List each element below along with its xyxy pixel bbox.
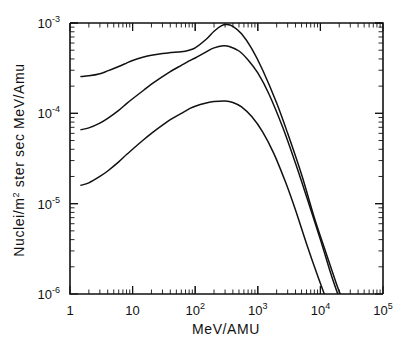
y-axis-title: Nuclei/m2 ster sec MeV/Amu xyxy=(11,63,27,256)
x-tick-label-0: 1 xyxy=(66,303,73,318)
x-tick-label-4: 104 xyxy=(311,301,330,318)
figure-container: 110102103104105 10-310-410-510-6 MeV/AMU… xyxy=(0,0,407,343)
x-tick-label-5: 105 xyxy=(373,301,392,318)
x-tick-label-3: 103 xyxy=(248,301,267,318)
spectrum-chart: 110102103104105 10-310-410-510-6 MeV/AMU… xyxy=(0,0,407,343)
x-tick-labels: 110102103104105 xyxy=(66,301,392,318)
curve-lower-curve xyxy=(81,101,328,303)
y-tick-labels: 10-310-410-510-6 xyxy=(38,14,60,302)
y-axis-title-post: ster sec MeV/Amu xyxy=(11,63,27,191)
y-tick-label-0: 10-3 xyxy=(38,14,60,31)
y-tick-label-1: 10-4 xyxy=(38,104,60,121)
y-tick-label-3: 10-6 xyxy=(38,285,60,302)
x-tick-label-1: 10 xyxy=(125,303,139,318)
y-tick-label-2: 10-5 xyxy=(38,195,60,212)
x-axis-title: MeV/AMU xyxy=(192,321,260,337)
y-axis-title-pre: Nuclei/m xyxy=(11,197,27,256)
axis-ticks xyxy=(70,23,383,294)
x-tick-label-2: 102 xyxy=(185,301,204,318)
data-curves xyxy=(81,25,342,303)
plot-frame xyxy=(70,23,383,294)
